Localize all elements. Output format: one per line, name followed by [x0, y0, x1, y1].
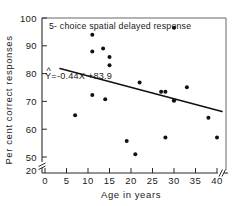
data-point [108, 55, 112, 59]
regression-equation-hat: ^ [47, 66, 52, 76]
x-tick-label: 0 [42, 175, 48, 186]
y-tick-label: 60 [26, 124, 37, 135]
data-point [206, 116, 210, 120]
data-point [73, 113, 77, 117]
data-point [90, 93, 94, 97]
data-point [101, 47, 105, 51]
data-point [90, 49, 94, 53]
data-point [215, 136, 219, 140]
x-tick-label: 40 [211, 175, 222, 186]
y-tick-label: 100 [20, 13, 37, 24]
data-point [172, 98, 176, 102]
x-tick-label: 20 [125, 175, 136, 186]
data-point [138, 81, 142, 85]
x-tick-label: 10 [82, 175, 93, 186]
data-point [133, 152, 137, 156]
y-axis-title: Per cent correct responses [3, 35, 14, 164]
data-point [159, 90, 163, 94]
y-tick-label: 90 [26, 40, 37, 51]
y-tick-label: 70 [26, 96, 37, 107]
y-tick-label: 20 [26, 165, 37, 176]
y-axis [39, 18, 48, 173]
x-axis-title: Age in years [101, 189, 161, 200]
scatter-plot-figure: 100 90 80 70 60 50 20 0 5 10 15 20 25 30… [0, 0, 247, 206]
x-tick-label: 15 [104, 175, 115, 186]
data-point [90, 33, 94, 37]
plot-frame [42, 18, 226, 170]
data-point [163, 136, 167, 140]
x-tick-label: 30 [168, 175, 179, 186]
y-tick-label: 80 [26, 68, 37, 79]
x-tick-label: 5 [64, 175, 70, 186]
plot-title: 5- choice spatial delayed response [49, 21, 191, 31]
data-point [163, 90, 167, 94]
x-tick-label: 35 [190, 175, 201, 186]
y-tick-labels: 100 90 80 70 60 50 20 [20, 13, 37, 176]
y-tick-label: 50 [26, 152, 37, 163]
data-point [185, 85, 189, 89]
regression-fit-line [60, 69, 222, 112]
plot-canvas: 100 90 80 70 60 50 20 0 5 10 15 20 25 30… [0, 0, 247, 206]
x-tick-label: 25 [147, 175, 158, 186]
data-point [103, 97, 107, 101]
x-tick-labels: 0 5 10 15 20 25 30 35 40 [42, 175, 223, 186]
data-point [108, 63, 112, 67]
data-point [125, 139, 129, 143]
data-point [172, 26, 176, 30]
